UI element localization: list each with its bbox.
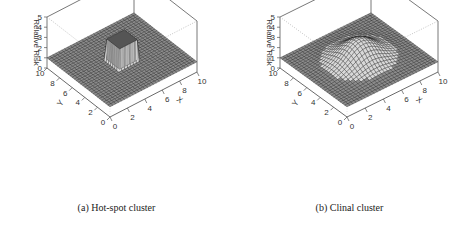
svg-text:0: 0	[101, 118, 106, 127]
y-axis-label: Y	[55, 98, 66, 108]
svg-text:8: 8	[50, 79, 55, 88]
svg-text:10: 10	[36, 69, 45, 78]
svg-text:0: 0	[338, 118, 343, 127]
svg-text:8: 8	[182, 86, 187, 95]
caption-clinal: (b) Clinal cluster	[233, 202, 466, 213]
svg-text:10: 10	[198, 77, 207, 86]
svg-text:6: 6	[298, 89, 303, 98]
svg-text:2: 2	[324, 108, 329, 117]
y-axis-label: Y	[290, 98, 301, 108]
svg-text:0: 0	[113, 122, 118, 131]
panel-hotspot: 012345Relative Risk0246810Y0246810X (a) …	[0, 0, 233, 225]
svg-text:6: 6	[63, 89, 68, 98]
svg-text:4: 4	[311, 98, 316, 107]
hotspot-surface-plot: 012345Relative Risk0246810Y0246810X	[0, 0, 233, 200]
z-axis-label: Relative Risk	[265, 19, 274, 67]
svg-text:4: 4	[148, 104, 153, 113]
svg-text:2: 2	[368, 113, 373, 122]
svg-text:6: 6	[404, 95, 409, 104]
z-axis-label: Relative Risk	[32, 19, 41, 67]
svg-text:2: 2	[88, 108, 93, 117]
x-axis-label: X	[175, 95, 185, 106]
caption-hotspot: (a) Hot-spot cluster	[0, 202, 233, 213]
svg-text:4: 4	[386, 104, 391, 113]
svg-text:4: 4	[76, 98, 81, 107]
surface-mesh	[280, 13, 438, 107]
clinal-surface-plot: 012345Relative Risk0246810Y0246810X	[233, 0, 466, 200]
svg-text:6: 6	[165, 95, 170, 104]
x-axis-label: X	[414, 95, 424, 106]
svg-text:8: 8	[423, 86, 428, 95]
svg-text:2: 2	[130, 113, 135, 122]
svg-text:0: 0	[350, 122, 355, 131]
svg-text:10: 10	[439, 77, 448, 86]
panel-clinal: 012345Relative Risk0246810Y0246810X (b) …	[233, 0, 466, 225]
svg-text:8: 8	[284, 79, 289, 88]
svg-text:10: 10	[269, 69, 278, 78]
